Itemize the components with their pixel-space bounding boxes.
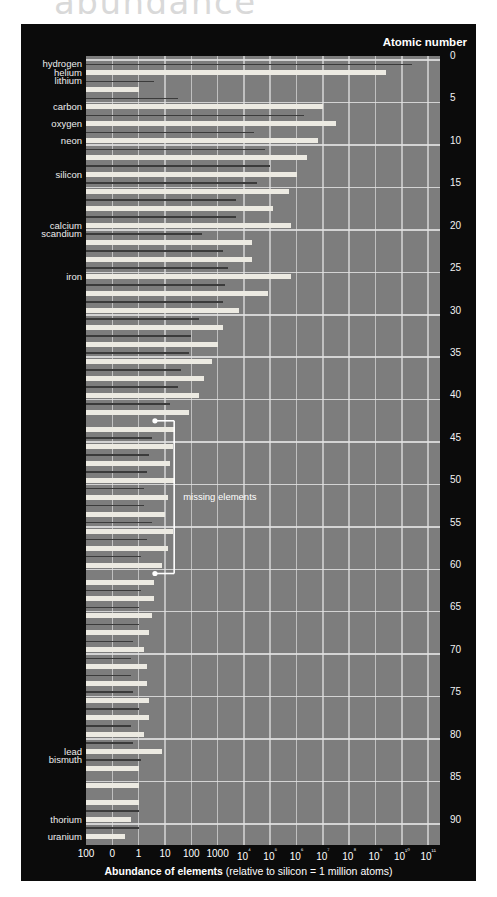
bar-z-71 xyxy=(86,658,131,660)
abundance-chart-figure: Atomic number hydrogenheliumlithiumcarbo… xyxy=(21,24,476,881)
bar-z-72 xyxy=(86,664,147,669)
bar-z-10 xyxy=(86,138,318,143)
bar-z-45 xyxy=(86,437,152,439)
element-label-oxygen: oxygen xyxy=(51,119,82,128)
bar-z-30 xyxy=(86,308,239,313)
element-label-column: hydrogenheliumlithiumcarbonoxygenneonsil… xyxy=(21,56,82,845)
atomic-number-tick-70: 70 xyxy=(450,645,461,655)
horizontal-gridline xyxy=(86,696,440,698)
atomic-number-tick-column: 051015202530354045505560657075808590 xyxy=(441,56,476,845)
horizontal-gridline xyxy=(86,653,440,655)
vertical-gridline xyxy=(322,56,324,845)
horizontal-gridline xyxy=(86,441,440,443)
element-label-carbon: carbon xyxy=(53,102,82,111)
bar-z-44 xyxy=(86,427,175,432)
x-tick-11: 10⁹ xyxy=(369,848,383,862)
bar-z-22 xyxy=(86,240,252,245)
element-label-neon: neon xyxy=(61,136,82,145)
bar-z-88 xyxy=(86,800,139,805)
bar-z-67 xyxy=(86,624,139,626)
bar-z-83 xyxy=(86,759,141,761)
bar-z-63 xyxy=(86,590,141,592)
vertical-gridline xyxy=(375,56,377,845)
bar-z-16 xyxy=(86,189,289,194)
bar-z-51 xyxy=(86,488,144,490)
atomic-number-tick-75: 75 xyxy=(450,687,461,697)
x-axis-title-bold: Abundance of elements xyxy=(105,865,223,877)
x-tick-0: 100 xyxy=(78,848,95,859)
horizontal-gridline xyxy=(86,356,440,358)
bar-z-1 xyxy=(86,64,412,66)
bar-z-19 xyxy=(86,216,236,218)
x-tick-4: 100 xyxy=(183,848,200,859)
horizontal-gridline xyxy=(86,144,440,146)
atomic-number-tick-15: 15 xyxy=(450,178,461,188)
bar-z-9 xyxy=(86,132,254,134)
bar-z-66 xyxy=(86,613,152,618)
bar-z-90 xyxy=(86,817,131,822)
bar-z-40 xyxy=(86,393,199,398)
horizontal-gridline xyxy=(86,526,440,528)
horizontal-gridline xyxy=(86,399,440,401)
x-tick-2: 1 xyxy=(136,848,142,859)
atomic-number-axis-title: Atomic number xyxy=(383,36,467,48)
bar-z-60 xyxy=(86,563,162,568)
horizontal-gridline xyxy=(86,187,440,189)
bar-z-41 xyxy=(86,403,170,405)
bar-z-86 xyxy=(86,783,139,788)
element-label-thorium: thorium xyxy=(50,815,82,824)
bar-z-11 xyxy=(86,149,265,151)
horizontal-gridline xyxy=(86,229,440,231)
plot-area: missing elements xyxy=(86,56,440,845)
bar-z-37 xyxy=(86,369,181,371)
bar-z-42 xyxy=(86,410,189,415)
atomic-number-tick-10: 10 xyxy=(450,136,461,146)
x-tick-13: 10¹¹ xyxy=(420,848,435,862)
bar-z-56 xyxy=(86,529,173,534)
horizontal-gridline xyxy=(86,781,440,783)
bar-z-36 xyxy=(86,359,212,364)
horizontal-gridline xyxy=(86,102,440,104)
horizontal-gridline xyxy=(86,611,440,613)
bar-z-52 xyxy=(86,495,168,500)
bar-z-75 xyxy=(86,691,133,693)
bar-z-23 xyxy=(86,250,223,252)
vertical-gridline xyxy=(348,56,350,845)
bar-z-21 xyxy=(86,233,202,235)
atomic-number-tick-85: 85 xyxy=(450,772,461,782)
element-label-iron: iron xyxy=(66,272,82,281)
bar-z-55 xyxy=(86,522,152,524)
bar-z-12 xyxy=(86,155,307,160)
horizontal-gridline xyxy=(86,738,440,740)
bar-z-3 xyxy=(86,81,154,83)
page-title: abundance xyxy=(54,0,257,22)
atomic-number-tick-0: 0 xyxy=(450,51,456,61)
missing-elements-label: missing elements xyxy=(183,491,256,502)
bar-z-8 xyxy=(86,121,336,126)
bar-z-24 xyxy=(86,257,252,262)
bar-z-65 xyxy=(86,607,139,609)
atomic-number-tick-20: 20 xyxy=(450,221,461,231)
vertical-gridline xyxy=(401,56,403,845)
bar-z-6 xyxy=(86,104,323,109)
element-label-scandium: scandium xyxy=(41,229,82,238)
atomic-number-tick-25: 25 xyxy=(450,263,461,273)
bar-z-64 xyxy=(86,596,154,601)
bar-z-50 xyxy=(86,478,175,483)
bar-z-89 xyxy=(86,810,139,812)
bar-z-39 xyxy=(86,386,178,388)
bar-z-68 xyxy=(86,630,149,635)
bar-z-62 xyxy=(86,580,154,585)
bar-z-76 xyxy=(86,698,149,703)
horizontal-gridline xyxy=(86,314,440,316)
atomic-number-tick-50: 50 xyxy=(450,475,461,485)
bar-z-54 xyxy=(86,512,165,517)
x-tick-6: 10⁴ xyxy=(237,848,251,862)
element-label-lithium: lithium xyxy=(55,76,82,85)
x-tick-3: 10 xyxy=(159,848,170,859)
atomic-number-tick-60: 60 xyxy=(450,560,461,570)
bar-z-46 xyxy=(86,444,173,449)
bar-z-17 xyxy=(86,199,236,201)
bar-z-73 xyxy=(86,675,131,677)
bar-z-5 xyxy=(86,98,178,100)
